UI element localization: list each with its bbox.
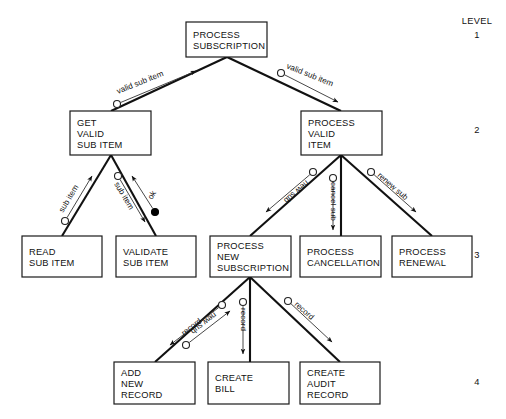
module-add-new-record-line-2: RECORD	[121, 390, 163, 400]
module-read-sub-item-line-0: READ	[29, 247, 56, 257]
module-create-audit-record-line-1: AUDIT	[307, 379, 336, 389]
module-process-subscription[interactable]: PROCESSSUBSCRIPTION	[186, 22, 267, 57]
couple-record-middle-label: record	[239, 308, 248, 331]
module-process-renewal-frame[interactable]	[392, 236, 472, 277]
module-process-new-subscription-line-2: SUBSCRIPTION	[217, 263, 289, 273]
couple-renew-sub-data-flag	[368, 169, 375, 176]
module-process-valid-item-line-2: ITEM	[308, 140, 331, 150]
module-validate-sub-item-line-0: VALIDATE	[123, 247, 168, 257]
module-create-audit-record-line-2: RECORD	[307, 390, 349, 400]
module-process-valid-item[interactable]: PROCESSVALIDITEM	[301, 111, 382, 155]
module-boxes: PROCESSSUBSCRIPTIONGETVALIDSUB ITEMPROCE…	[22, 22, 472, 404]
level-marker-1: 1	[474, 30, 479, 40]
couple-cancel-sub: cancel sub	[329, 175, 338, 231]
couple-renew-sub: renew sub	[368, 169, 417, 213]
couple-record-right-label: record	[293, 300, 316, 322]
couple-valid-sub-item-right-label: valid sub item	[285, 62, 334, 89]
level-legend-header: LEVEL	[462, 16, 492, 26]
couple-record-left-data-flag	[183, 342, 190, 349]
module-create-bill-line-1: BILL	[215, 384, 235, 394]
module-process-valid-item-line-1: VALID	[308, 129, 335, 139]
module-read-sub-item-line-1: SUB ITEM	[29, 258, 75, 268]
couple-valid-sub-item-left: valid sub item	[114, 69, 197, 108]
module-create-bill-frame[interactable]	[208, 362, 289, 404]
couple-new-sub: new sub	[266, 169, 317, 213]
level-marker-4: 4	[474, 377, 479, 387]
module-process-renewal-line-0: PROCESS	[399, 247, 446, 257]
module-process-subscription-line-1: SUBSCRIPTION	[193, 41, 265, 51]
couple-ok-control-flag	[152, 209, 159, 216]
module-get-valid-sub-item-line-1: VALID	[77, 129, 104, 139]
module-process-cancellation-frame[interactable]	[300, 236, 381, 277]
couple-sub-item-left-data-flag	[62, 218, 69, 225]
module-create-audit-record-line-0: CREATE	[307, 368, 345, 378]
couple-valid-sub-item-left-label: valid sub item	[115, 69, 164, 96]
couple-ok-label: ok	[146, 188, 159, 201]
level-legend: LEVEL1234	[462, 16, 492, 387]
couple-record-middle: record	[239, 299, 248, 355]
couple-new-sub-lower-data-flag	[219, 302, 226, 309]
module-process-new-subscription-line-0: PROCESS	[217, 241, 264, 251]
module-process-cancellation[interactable]: PROCESSCANCELLATION	[300, 236, 381, 277]
connection-process-new-subscription-to-create-audit-record	[250, 277, 340, 362]
module-validate-sub-item-frame[interactable]	[116, 236, 196, 277]
couple-record-right-data-flag	[285, 298, 292, 305]
module-validate-sub-item-line-1: SUB ITEM	[123, 258, 169, 268]
data-couples: valid sub itemvalid sub itemsub itemsub …	[57, 62, 416, 354]
couple-renew-sub-label: renew sub	[376, 171, 410, 203]
module-validate-sub-item[interactable]: VALIDATESUB ITEM	[116, 236, 196, 277]
couple-sub-item-right: sub item	[112, 173, 145, 223]
module-process-subscription-frame[interactable]	[186, 22, 267, 57]
module-process-renewal-line-1: RENEWAL	[399, 258, 446, 268]
module-get-valid-sub-item-line-0: GET	[77, 118, 97, 128]
connection-process-valid-item-to-process-renewal	[341, 155, 432, 236]
couple-sub-item-right-data-flag	[115, 173, 122, 180]
module-read-sub-item[interactable]: READSUB ITEM	[22, 236, 102, 277]
module-process-valid-item-line-0: PROCESS	[308, 118, 355, 128]
module-add-new-record-line-1: NEW	[121, 379, 143, 389]
module-process-cancellation-line-0: PROCESS	[307, 247, 354, 257]
module-add-new-record[interactable]: ADDNEWRECORD	[114, 362, 195, 404]
couple-sub-item-right-label: sub item	[112, 180, 136, 211]
module-read-sub-item-frame[interactable]	[22, 236, 102, 277]
diagram-canvas: valid sub itemvalid sub itemsub itemsub …	[0, 0, 506, 419]
level-marker-2: 2	[474, 125, 479, 135]
couple-new-sub-data-flag	[310, 169, 317, 176]
level-marker-3: 3	[474, 250, 479, 260]
structure-chart-diagram: valid sub itemvalid sub itemsub itemsub …	[0, 0, 506, 419]
couple-valid-sub-item-left-data-flag	[114, 101, 121, 108]
module-create-audit-record[interactable]: CREATEAUDITRECORD	[300, 362, 380, 404]
module-process-new-subscription[interactable]: PROCESSNEWSUBSCRIPTION	[210, 236, 291, 277]
module-process-subscription-line-0: PROCESS	[193, 30, 240, 40]
module-create-bill[interactable]: CREATEBILL	[208, 362, 289, 404]
module-process-new-subscription-line-1: NEW	[217, 252, 239, 262]
couple-valid-sub-item-right-data-flag	[278, 70, 285, 77]
module-get-valid-sub-item[interactable]: GETVALIDSUB ITEM	[70, 111, 151, 155]
couple-record-middle-data-flag	[240, 299, 247, 306]
couple-cancel-sub-data-flag	[330, 175, 337, 182]
module-process-cancellation-line-1: CANCELLATION	[307, 258, 380, 268]
couple-ok: ok	[132, 176, 159, 216]
couple-cancel-sub-label: cancel sub	[329, 182, 338, 221]
module-process-renewal[interactable]: PROCESSRENEWAL	[392, 236, 472, 277]
module-create-bill-line-0: CREATE	[215, 373, 253, 383]
module-add-new-record-line-0: ADD	[121, 368, 141, 378]
module-get-valid-sub-item-line-2: SUB ITEM	[77, 140, 123, 150]
couple-record-right: record	[285, 298, 333, 343]
couple-new-sub-label: new sub	[282, 178, 311, 205]
